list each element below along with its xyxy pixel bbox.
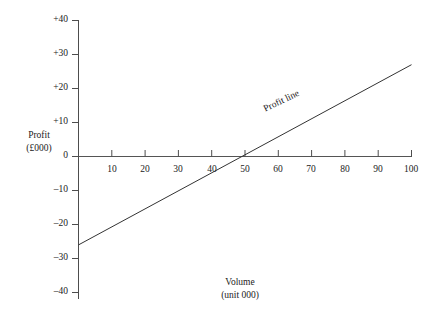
x-axis-title-line2: (unit 000)	[204, 291, 276, 301]
y-axis-title: Profit (£000)	[8, 131, 70, 153]
y-axis-title-line2: (£000)	[8, 144, 70, 154]
x-tick-label-80: 80	[333, 165, 357, 175]
y-tick-label-40: +40	[34, 15, 68, 25]
x-tick-label-70: 70	[299, 165, 323, 175]
x-axis-title-line1: Volume	[204, 278, 276, 288]
y-tick-label-m20: –20	[34, 219, 68, 229]
y-tick-label-20: +20	[34, 83, 68, 93]
y-tick-label-30: +30	[34, 49, 68, 59]
y-tick-label-m30: –30	[34, 253, 68, 263]
x-tick-label-40: 40	[200, 165, 224, 175]
y-axis-ticks	[72, 21, 79, 293]
x-tick-label-30: 30	[166, 165, 190, 175]
x-tick-label-10: 10	[100, 165, 124, 175]
y-tick-label-10: +10	[34, 117, 68, 127]
x-tick-label-60: 60	[266, 165, 290, 175]
y-tick-label-m10: –10	[34, 185, 68, 195]
x-tick-label-50: 50	[233, 165, 257, 175]
y-tick-label-m40: –40	[34, 287, 68, 297]
x-axis-title: Volume (unit 000)	[204, 278, 276, 300]
x-axis-ticks	[112, 150, 412, 157]
y-axis-title-line1: Profit	[8, 131, 70, 141]
chart-canvas: +40 +30 +20 +10 0 –10 –20 –30 –40 10 20 …	[0, 0, 439, 315]
x-tick-label-20: 20	[133, 165, 157, 175]
x-tick-label-100: 100	[399, 165, 423, 175]
profit-line-series	[79, 65, 412, 245]
x-tick-label-90: 90	[366, 165, 390, 175]
